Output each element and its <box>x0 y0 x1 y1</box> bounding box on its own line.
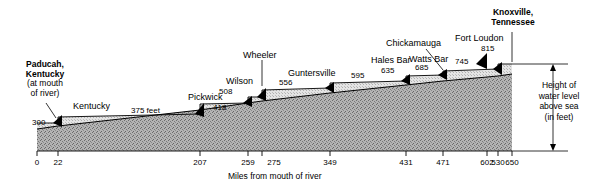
xtick-22: 22 <box>48 158 68 167</box>
elevation-pickwick: 418 <box>213 103 226 112</box>
xtick-275: 275 <box>262 158 286 167</box>
xtick-207: 207 <box>188 158 212 167</box>
paducah-label: Paducah, Kentucky <box>14 60 76 79</box>
elevation-chickamauga: 685 <box>415 63 428 72</box>
dam-label-fort-loudon: Fort Loudon <box>455 33 504 43</box>
dam-label-pickwick: Pickwick <box>188 92 223 102</box>
knoxville-line2: Tennessee <box>478 18 548 28</box>
elevation-wilson: 508 <box>219 87 232 96</box>
bracket-line4: (in feet) <box>521 112 597 123</box>
elevation-fort-loudon: 815 <box>481 44 494 53</box>
elevation-watts-bar: 745 <box>455 57 468 66</box>
xtick-259: 259 <box>236 158 260 167</box>
xtick-349: 349 <box>318 158 342 167</box>
xtick-431: 431 <box>394 158 418 167</box>
elevation-kentucky: 375 feet <box>131 106 160 115</box>
dam-label-hales-bar: Hales Bar <box>371 55 411 65</box>
dam-label-kentucky: Kentucky <box>73 101 110 111</box>
knoxville-label: Knoxville, Tennessee <box>478 8 548 27</box>
dam-label-wilson: Wilson <box>226 76 253 86</box>
dam-label-chickamauga: Chickamauga <box>386 38 441 48</box>
x-axis <box>37 151 512 156</box>
dam-label-guntersville: Guntersville <box>288 68 336 78</box>
bracket-line3: above sea <box>521 101 597 112</box>
dam-fort-loudon <box>476 53 487 69</box>
bracket-line2: water level <box>521 91 597 102</box>
paducah-sublabel: (at mouth of river) <box>14 79 76 98</box>
xtick-602: 602 <box>475 158 499 167</box>
riverbed-ground <box>37 74 512 151</box>
elevation-guntersville: 595 <box>351 71 364 80</box>
elevation-wheeler: 556 <box>279 78 292 87</box>
xtick-0: 0 <box>27 158 47 167</box>
river-profile-diagram: Paducah, Kentucky (at mouth of river) Kn… <box>0 0 602 187</box>
paducah-sub2: of river) <box>14 89 76 99</box>
elevation-hales-bar: 635 <box>381 66 394 75</box>
height-bracket-caption: Height of water level above sea (in feet… <box>521 80 597 123</box>
xtick-471: 471 <box>431 158 455 167</box>
bracket-line1: Height of <box>521 80 597 91</box>
elevation-start: 300 <box>32 118 45 127</box>
xtick-650: 650 <box>500 158 524 167</box>
x-axis-title: Miles from mouth of river <box>228 171 322 181</box>
dam-label-wheeler: Wheeler <box>243 50 277 60</box>
